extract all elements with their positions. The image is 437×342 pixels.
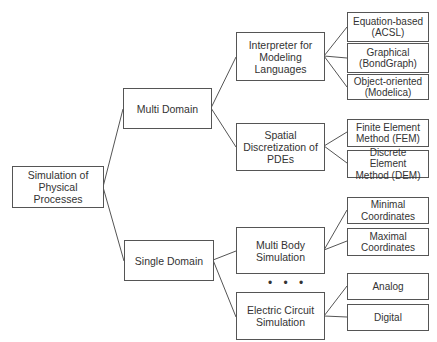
leaf-object-oriented: Object-oriented (Modelica) [347, 74, 429, 100]
leaf-discrete-element-method: Discrete Element Method (DEM) [347, 150, 429, 178]
node-root: Simulation of Physical Processes [12, 166, 104, 208]
leaf-finite-element-method: Finite Element Method (FEM) [347, 119, 429, 147]
leaf-minimal-coordinates: Minimal Coordinates [347, 197, 429, 224]
leaf-graphical: Graphical (BondGraph) [347, 43, 429, 73]
node-multi-body-simulation: Multi Body Simulation [236, 227, 325, 274]
node-electric-circuit-simulation: Electric Circuit Simulation [236, 292, 325, 340]
ellipsis: • • • [268, 276, 307, 290]
leaf-equation-based: Equation-based (ACSL) [347, 12, 429, 42]
leaf-digital: Digital [347, 304, 429, 331]
leaf-analog: Analog [347, 273, 429, 300]
node-multi-domain: Multi Domain [123, 88, 212, 129]
node-single-domain: Single Domain [124, 240, 214, 281]
node-spatial-discretization: Spatial Discretization of PDEs [236, 123, 325, 171]
node-interpreter-modeling-languages: Interpreter for Modeling Languages [236, 32, 325, 81]
leaf-maximal-coordinates: Maximal Coordinates [347, 228, 429, 256]
